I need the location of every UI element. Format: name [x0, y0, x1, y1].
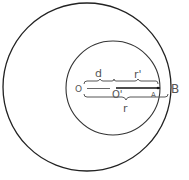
- point-a-marker: [157, 87, 160, 90]
- label-o-prime: O': [112, 89, 123, 100]
- label-a: A: [151, 91, 156, 99]
- label-d: d: [95, 67, 102, 80]
- outer-circle: [3, 3, 171, 171]
- label-b: B: [171, 82, 179, 96]
- diagram-canvas: O O' A B d r' r: [0, 0, 189, 180]
- label-r-prime: r': [134, 68, 142, 81]
- label-r: r: [123, 102, 128, 115]
- label-o: O: [75, 84, 82, 94]
